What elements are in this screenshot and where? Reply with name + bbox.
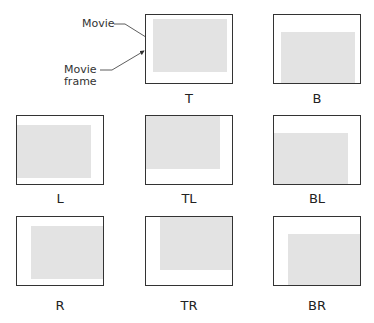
panel-label: BR: [273, 298, 361, 313]
movie-frame-callout: Movie frame: [64, 64, 97, 88]
movie-rect: [146, 116, 220, 169]
callout-line: frame: [64, 76, 97, 88]
panel-TR: [145, 216, 233, 286]
panel-label: R: [16, 298, 104, 313]
panel-B: [273, 14, 361, 84]
panel-label: TR: [145, 298, 233, 313]
movie-rect: [17, 125, 91, 178]
movie-rect: [153, 19, 227, 72]
panel-L: [16, 115, 104, 185]
panel-T: [145, 14, 233, 84]
panel-BR: [273, 216, 361, 286]
movie-rect: [31, 226, 104, 279]
movie-rect: [274, 133, 348, 185]
panel-BL: [273, 115, 361, 185]
panel-label: TL: [145, 191, 233, 206]
panel-label: B: [273, 91, 361, 106]
movie-rect: [281, 32, 355, 84]
movie-rect: [160, 217, 233, 270]
panel-R: [16, 216, 104, 286]
panel-label: BL: [273, 191, 361, 206]
panel-label: T: [145, 91, 233, 106]
panel-TL: [145, 115, 233, 185]
movie-rect: [288, 234, 361, 286]
panel-label: L: [16, 191, 104, 206]
movie-callout: Movie: [82, 18, 115, 30]
